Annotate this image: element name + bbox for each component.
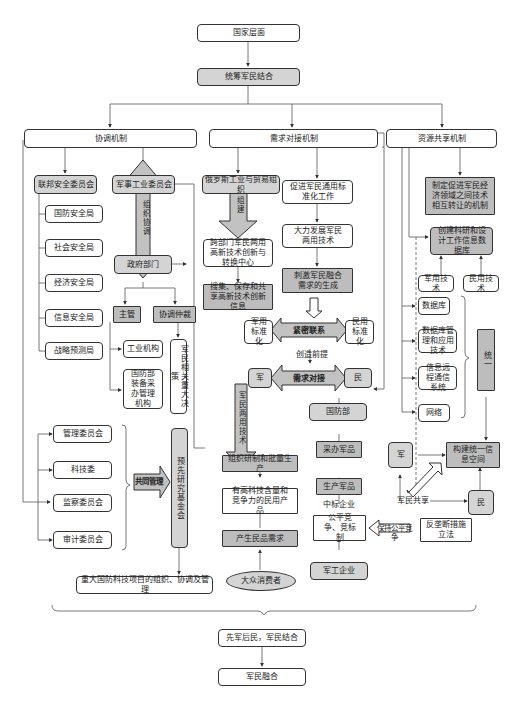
government-departments-box: 政府部门 — [114, 255, 172, 274]
national-level-box: 国家层面 — [197, 24, 300, 42]
advanced-research-fund-box: 预先研究基金会 — [171, 428, 188, 548]
security-bureau-box: 社会安全局 — [45, 239, 103, 257]
committee-box: 管理委员会 — [53, 425, 112, 443]
industrial-agencies-box: 工业机构 — [123, 340, 163, 358]
produce-box: 生产军品 — [316, 478, 362, 495]
major-projects-box: 重大国防科技项目的组织、协调及管理 — [76, 576, 213, 594]
organize-production-box: 组织研制和批量生产 — [222, 455, 298, 472]
security-bureau-box: 经济安全局 — [45, 274, 103, 292]
create-premise-label: 创造前提 — [292, 350, 332, 360]
demand-docking-mechanism-header: 需求对接机制 — [209, 129, 378, 148]
demand-docking-label: 需求对接 — [284, 374, 334, 384]
promote-standardization-box: 促进军民通用标准化工作 — [282, 180, 353, 204]
committee-box: 科技委 — [53, 461, 112, 479]
overall-planning-box: 统筹军民结合 — [197, 68, 300, 86]
innovation-center-box: 跨部门军民两用高新技术创新与转换中心 — [203, 239, 273, 267]
civil-tech-box: 民用技术 — [463, 275, 499, 292]
coordination-arbitration-box: 协调仲裁 — [153, 306, 196, 323]
civil-standard-box: 民用标准化 — [345, 320, 374, 344]
military-tech-box: 军用技术 — [418, 275, 454, 292]
org-coordination-label: 组织协调 — [138, 188, 150, 248]
military-box: 军 — [248, 368, 272, 388]
dual-use-tech-label: 军民两用技术 — [236, 388, 246, 448]
resource-item-box: 信息远程通信系统 — [418, 366, 457, 390]
supervision-box: 主管 — [113, 306, 141, 323]
major-decisions-box: 军民相关重大决策 — [170, 339, 187, 414]
civil-box: 民 — [344, 368, 372, 388]
database-create-box: 创建科研和设计工作信息数据库 — [430, 227, 493, 255]
mechanism-box: 制定促进军民经济领域之间技术相互转让的机制 — [425, 177, 495, 215]
procure-box: 采办军品 — [316, 441, 362, 458]
committee-box: 审计委员会 — [53, 531, 112, 549]
shared-label: 军民共享 — [397, 496, 429, 506]
mod-procurement-box: 国防部装备采办管理机构 — [123, 369, 163, 409]
resource-item-box: 数据库 — [418, 297, 450, 315]
mod-box: 国防部 — [309, 403, 367, 421]
resource-civil-box: 民 — [468, 490, 494, 515]
winning-bidder-label: 中标企业 — [317, 500, 361, 510]
fair-competition-box: 公平竞争、竞标制 — [313, 515, 366, 541]
stimulate-demand-box: 刺激军民融合需求的生成 — [282, 268, 353, 293]
unified-space-box: 构建统一信息空间 — [446, 442, 500, 468]
resource-item-box: 数据库管理和应用技术 — [418, 329, 457, 353]
resource-sharing-mechanism-header: 资源共享机制 — [386, 129, 497, 148]
keep-fair-label: 保持公平竞争 — [374, 524, 414, 542]
integration-box: 军民融合 — [218, 668, 306, 686]
high-tech-products-box: 有高科技含量和竞争力的民用产品 — [222, 488, 298, 514]
military-enterprises-box: 军工企业 — [310, 562, 368, 580]
civil-demand-box: 产生民品需求 — [222, 530, 298, 547]
principle-box: 先军后民，军民结合 — [218, 629, 306, 647]
anti-monopoly-box: 反垄断措施立法 — [420, 518, 472, 542]
military-standard-box: 军用标准化 — [244, 320, 273, 344]
federal-security-council-box: 联邦安全委员会 — [34, 175, 97, 194]
develop-dual-use-box: 大力发展军民两用技术 — [282, 224, 353, 248]
resource-item-box: 网络 — [418, 404, 450, 422]
security-bureau-box: 国防安全局 — [45, 205, 103, 223]
joint-management-label: 共同管理 — [134, 477, 164, 486]
unify-box: 统一 — [477, 329, 495, 391]
resource-military-box: 军 — [388, 442, 413, 468]
build-label: 组建 — [232, 190, 244, 220]
coordination-mechanism-header: 协调机制 — [24, 129, 197, 148]
close-link-label: 紧密联系 — [283, 326, 335, 336]
security-bureau-box: 信息安全局 — [45, 309, 103, 327]
collect-info-box: 搜集、保存和共享高新技术创新信息 — [203, 284, 273, 310]
security-bureau-box: 战略预测局 — [45, 342, 103, 360]
consumers-ellipse: 大众消费者 — [226, 571, 296, 591]
committee-box: 监察委员会 — [53, 494, 112, 512]
